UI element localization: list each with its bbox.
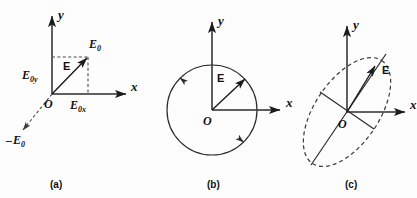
svg-text:E: E <box>21 68 30 82</box>
panel-b-x-axis-label: x <box>285 95 293 110</box>
panel-a-negative-amplitude-label: – E 0 <box>5 133 25 149</box>
panel-b-origin-label: O <box>203 114 212 128</box>
panel-a-component-x-label: E 0x <box>69 98 86 114</box>
panel-c: x y O E (c) <box>286 17 417 190</box>
panel-c-caption: (c) <box>345 179 357 190</box>
panel-c-x-axis-label: x <box>409 97 417 112</box>
panel-c-field-vector-label: E <box>382 64 389 76</box>
panel-a-origin-label: O <box>44 97 53 111</box>
figure-canvas: x y O E 0 E E 0y E 0x – E <box>0 0 417 198</box>
panel-a-caption: (a) <box>50 179 62 190</box>
svg-text:E: E <box>12 133 21 147</box>
panel-b-rotation-arrow-upper <box>180 78 183 80</box>
svg-text:E: E <box>69 98 78 112</box>
panel-b: x y O E (b) <box>167 13 293 190</box>
panel-a-y-axis-label: y <box>56 7 64 22</box>
panel-a: x y O E 0 E E 0y E 0x – E <box>5 7 138 190</box>
svg-text:0x: 0x <box>78 105 86 114</box>
panel-b-field-vector-label: E <box>217 72 224 84</box>
panel-a-component-y-label: E 0y <box>21 68 38 84</box>
physics-figure-polarization: x y O E 0 E E 0y E 0x – E <box>0 0 417 198</box>
panel-a-amplitude-label: E 0 <box>88 37 101 53</box>
svg-text:–: – <box>5 133 12 147</box>
svg-text:0y: 0y <box>30 75 38 84</box>
panel-c-y-axis-label: y <box>351 17 359 32</box>
svg-text:0: 0 <box>21 140 25 149</box>
panel-c-origin-label: O <box>338 117 347 131</box>
panel-a-x-axis-label: x <box>130 79 138 94</box>
panel-a-field-vector-label: E <box>63 60 70 72</box>
panel-b-rotation-arrow-lower <box>241 140 244 142</box>
panel-c-field-vector <box>347 66 375 112</box>
svg-text:0: 0 <box>97 44 101 53</box>
panel-b-y-axis-label: y <box>216 13 224 28</box>
panel-b-caption: (b) <box>207 179 220 190</box>
svg-text:E: E <box>88 37 97 51</box>
